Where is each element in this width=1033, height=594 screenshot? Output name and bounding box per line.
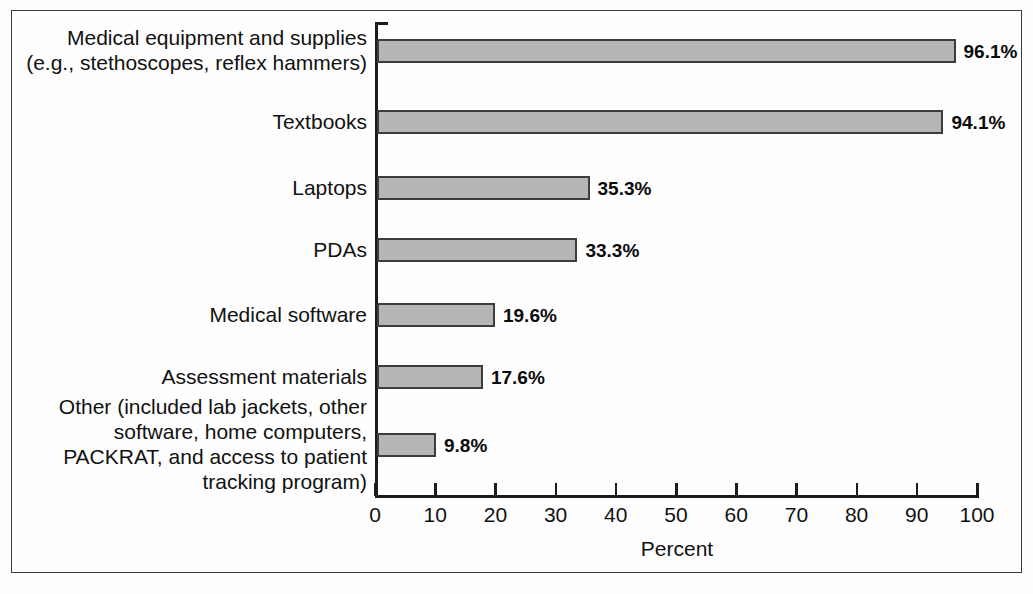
x-axis-tick bbox=[976, 483, 979, 496]
category-label: Assessment materials bbox=[0, 364, 367, 389]
category-label: Medical software bbox=[0, 302, 367, 327]
bar-value-label: 96.1% bbox=[964, 42, 1018, 61]
x-axis-tick-label: 100 bbox=[947, 503, 1007, 527]
bar-value-label: 33.3% bbox=[585, 241, 639, 260]
bar bbox=[377, 365, 483, 389]
x-axis-tick-label: 20 bbox=[465, 503, 525, 527]
x-axis-tick bbox=[374, 483, 377, 496]
category-label: Laptops bbox=[0, 175, 367, 200]
bar bbox=[377, 176, 590, 200]
x-axis-tick-label: 40 bbox=[586, 503, 646, 527]
x-axis-title: Percent bbox=[375, 537, 979, 561]
bar-value-label: 94.1% bbox=[951, 113, 1005, 132]
x-axis-tick bbox=[434, 483, 437, 496]
bar-value-label: 9.8% bbox=[444, 436, 487, 455]
bar bbox=[377, 39, 956, 63]
x-axis-tick-label: 80 bbox=[827, 503, 887, 527]
category-label: PDAs bbox=[0, 237, 367, 262]
category-label: Textbooks bbox=[0, 109, 367, 134]
category-label: Other (included lab jackets, other softw… bbox=[0, 394, 367, 494]
bar bbox=[377, 110, 943, 134]
x-axis-tick-label: 60 bbox=[706, 503, 766, 527]
y-axis-top-cap bbox=[375, 22, 388, 25]
x-axis-tick bbox=[735, 483, 738, 496]
x-axis-tick bbox=[675, 483, 678, 496]
figure-canvas: 0102030405060708090100 96.1%94.1%35.3%33… bbox=[0, 0, 1033, 594]
x-axis-tick-label: 90 bbox=[887, 503, 947, 527]
bar bbox=[377, 433, 436, 457]
bar bbox=[377, 303, 495, 327]
x-axis-tick-label: 70 bbox=[766, 503, 826, 527]
bar-value-label: 17.6% bbox=[491, 368, 545, 387]
x-axis-tick bbox=[494, 483, 497, 496]
category-label: Medical equipment and supplies (e.g., st… bbox=[0, 25, 367, 75]
x-axis-tick bbox=[615, 483, 618, 496]
x-axis-tick-label: 10 bbox=[405, 503, 465, 527]
bar-value-label: 19.6% bbox=[503, 306, 557, 325]
x-axis-tick bbox=[916, 483, 919, 496]
x-axis-tick bbox=[856, 483, 859, 496]
bar bbox=[377, 238, 577, 262]
x-axis-tick-label: 30 bbox=[526, 503, 586, 527]
x-axis-tick bbox=[555, 483, 558, 496]
x-axis-tick bbox=[795, 483, 798, 496]
x-axis-tick-label: 0 bbox=[345, 503, 405, 527]
x-axis-tick-label: 50 bbox=[646, 503, 706, 527]
bar-value-label: 35.3% bbox=[598, 179, 652, 198]
